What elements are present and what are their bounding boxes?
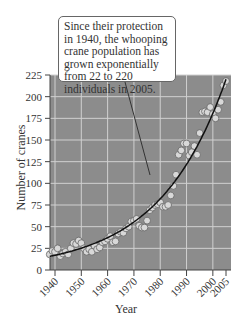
y-tick-label: 50	[31, 221, 43, 233]
data-point	[144, 217, 151, 224]
y-axis-title: Number of cranes	[14, 123, 29, 213]
data-point	[178, 147, 185, 154]
data-point	[183, 140, 190, 147]
x-axis-title: Year	[115, 302, 137, 317]
y-tick-label: 75	[31, 199, 43, 211]
data-point	[207, 104, 214, 111]
x-tick-label: 1970	[115, 275, 139, 299]
data-point	[141, 224, 148, 231]
data-point	[167, 192, 174, 199]
y-tick-label: 25	[31, 242, 43, 254]
x-tick-label: 1940	[36, 275, 60, 299]
data-point	[194, 151, 201, 158]
data-point	[165, 202, 172, 209]
x-tick-label: 1960	[89, 275, 113, 299]
y-tick-label: 0	[37, 264, 43, 276]
x-tick-label: 1990	[168, 275, 192, 299]
y-tick-label: 200	[26, 91, 43, 103]
annotation-callout: Since their protection in 1940, the whoo…	[58, 16, 176, 82]
data-point	[112, 238, 119, 245]
x-tick-label: 1950	[63, 275, 87, 299]
data-point	[212, 115, 219, 122]
data-point	[54, 245, 61, 252]
y-tick-label: 225	[26, 69, 43, 81]
x-tick-label: 1980	[142, 275, 166, 299]
